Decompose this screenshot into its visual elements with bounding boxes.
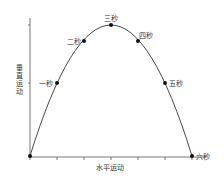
point-0s [28,154,32,158]
label-1s: 一秒 [39,79,53,88]
point-1s [55,81,59,85]
trajectory-curve [30,25,192,156]
y-axis-label: 垂直运动 [14,64,24,96]
trajectory-diagram: 一秒 二秒 三秒 四秒 五秒 六秒 垂直运动 水平运动 [0,0,224,182]
point-6s [190,154,194,158]
label-5s: 五秒 [169,79,183,88]
point-5s [163,81,167,85]
label-4s: 四秒 [139,31,153,40]
x-axis-label: 水平运动 [96,162,124,172]
label-6s: 六秒 [196,152,210,161]
point-3s [109,23,113,27]
point-2s [82,39,86,43]
label-3s: 三秒 [104,14,118,23]
trajectory-svg: 一秒 二秒 三秒 四秒 五秒 六秒 [0,0,224,182]
label-2s: 二秒 [67,37,81,46]
